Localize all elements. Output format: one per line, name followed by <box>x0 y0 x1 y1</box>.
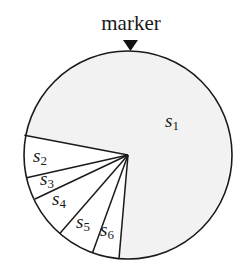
marker-label: marker <box>101 11 160 35</box>
down-triangle-icon <box>123 40 138 51</box>
roulette-wheel-diagram: marker s1 s2 s3 s4 s5 s6 <box>0 0 251 270</box>
